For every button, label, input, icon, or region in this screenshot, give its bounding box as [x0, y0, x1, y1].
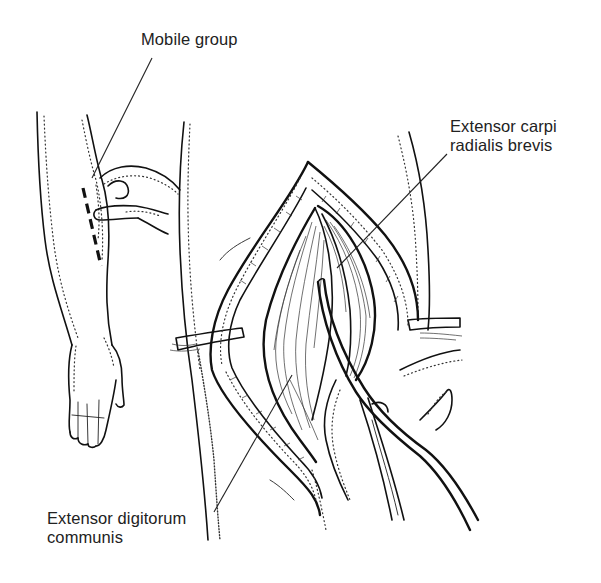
- label-edc-line2: communis: [47, 528, 123, 547]
- surgical-field: [170, 122, 478, 540]
- forearm-figure: [37, 112, 180, 447]
- line-art: [0, 0, 601, 583]
- anatomical-illustration: Mobile group Extensor carpi radialis bre…: [0, 0, 601, 583]
- label-mobile-group: Mobile group: [141, 30, 238, 49]
- leader-lines: [92, 58, 447, 512]
- label-ecrb-line1: Extensor carpi: [450, 117, 557, 136]
- leader-ecrb: [337, 154, 447, 268]
- label-ecrb-line2: radialis brevis: [450, 136, 552, 155]
- leader-mobile-group: [92, 58, 152, 178]
- label-edc-line1: Extensor digitorum: [47, 509, 186, 528]
